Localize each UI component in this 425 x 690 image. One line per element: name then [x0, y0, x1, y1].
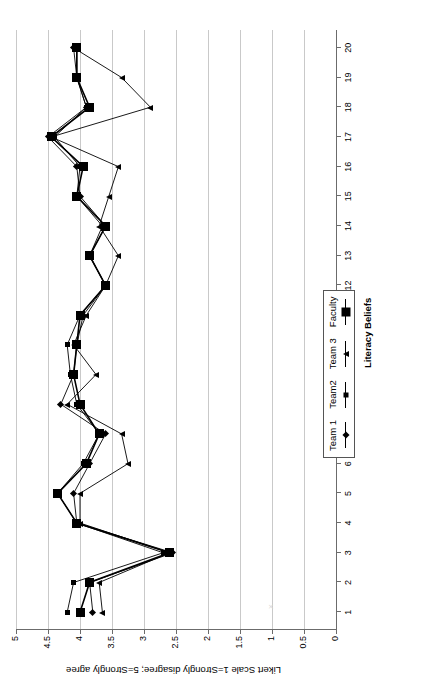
data-point — [69, 370, 78, 379]
x-axis-tick — [337, 255, 341, 256]
x-axis-tick — [337, 106, 341, 107]
legend-entry-faculty: Faculty — [328, 297, 351, 328]
legend-entry-team2: Team2 — [328, 380, 351, 409]
legend-label: Team 3 — [328, 338, 338, 369]
data-point — [95, 429, 104, 438]
data-point — [165, 548, 174, 557]
series-lines — [16, 30, 336, 630]
y-axis-tick-label: 1 — [267, 636, 276, 668]
data-point — [85, 578, 94, 587]
series-line-team-3 — [51, 48, 169, 612]
chart-figure: Team 1Team2Team 3Faculty 00.511.522.533.… — [0, 0, 425, 690]
data-point — [65, 342, 70, 347]
y-axis-tick-label: 1.5 — [235, 636, 244, 668]
x-axis-tick-label: 5 — [344, 481, 353, 505]
data-point — [72, 519, 81, 528]
data-point — [101, 222, 110, 231]
y-axis-tick-label: 0.5 — [299, 636, 308, 668]
x-axis-tick-label: 20 — [344, 36, 353, 60]
x-axis-tick — [337, 552, 341, 553]
data-point — [53, 489, 62, 498]
legend-entry-team-1: Team 1 — [328, 420, 351, 451]
x-axis-tick-label: 2 — [344, 570, 353, 594]
data-point — [82, 459, 91, 468]
x-axis-tick-label: 16 — [344, 155, 353, 179]
data-point — [72, 43, 81, 52]
y-axis-tick-label: 0 — [331, 636, 340, 668]
y-axis-tick-label: 2.5 — [171, 636, 180, 668]
x-axis-tick-label: 17 — [344, 125, 353, 149]
data-point — [72, 73, 81, 82]
plot-wrapper: Team 1Team2Team 3Faculty 00.511.522.533.… — [0, 0, 425, 690]
y-axis-tick — [336, 630, 337, 634]
series-line-team2 — [54, 48, 163, 612]
y-axis-tick — [80, 630, 81, 634]
x-axis-tick — [337, 581, 341, 582]
data-point — [76, 311, 85, 320]
y-axis-tick — [272, 630, 273, 634]
data-point — [96, 580, 102, 586]
x-axis-tick — [337, 492, 341, 493]
y-axis-tick — [240, 630, 241, 634]
y-axis-tick — [176, 630, 177, 634]
legend-entry-team-3: Team 3 — [328, 338, 351, 369]
x-axis-tick-label: 19 — [344, 66, 353, 90]
y-axis-tick-label: 3.5 — [107, 636, 116, 668]
x-axis-tick-label: 13 — [344, 244, 353, 268]
y-axis-tick — [144, 630, 145, 634]
diamond-icon — [340, 422, 351, 448]
data-point — [65, 610, 70, 615]
data-point — [99, 610, 105, 616]
y-axis-title: Likert Scale 1=Strongly disagree; 5=Stro… — [66, 665, 281, 676]
legend-label: Faculty — [328, 297, 338, 328]
legend-label: Team 1 — [328, 420, 338, 451]
data-point — [147, 105, 153, 111]
data-point — [115, 253, 121, 259]
x-axis-tick-label: 1 — [344, 600, 353, 624]
y-axis-tick-label: 4 — [75, 636, 84, 668]
series-line-faculty — [51, 48, 169, 612]
data-point — [106, 194, 112, 200]
y-axis-tick-label: 5 — [11, 636, 20, 668]
y-axis-tick-label: 3 — [139, 636, 148, 668]
y-axis-tick — [16, 630, 17, 634]
data-point — [85, 103, 94, 112]
data-point — [79, 162, 88, 171]
y-axis-tick — [208, 630, 209, 634]
x-axis-title: Literacy Beliefs — [362, 298, 373, 368]
data-point — [47, 132, 56, 141]
data-point — [119, 431, 125, 437]
data-point — [64, 402, 70, 408]
y-axis-tick — [112, 630, 113, 634]
x-axis-tick — [337, 463, 341, 464]
data-point — [71, 580, 76, 585]
x-axis-tick — [337, 77, 341, 78]
x-axis-tick-label: 14 — [344, 214, 353, 238]
data-point — [76, 400, 85, 409]
x-axis-tick — [337, 522, 341, 523]
data-point — [85, 251, 94, 260]
triangle-icon — [340, 341, 351, 367]
data-point — [125, 461, 131, 467]
plot-area: 00.511.522.533.544.551234567891011121314… — [16, 30, 336, 630]
y-axis-tick — [48, 630, 49, 634]
square-large-icon — [340, 299, 351, 325]
data-point — [119, 75, 125, 81]
y-axis-tick-label: 4.5 — [43, 636, 52, 668]
data-point — [72, 340, 81, 349]
scan-artifact: × — [266, 604, 276, 609]
x-axis-tick-label: 18 — [344, 95, 353, 119]
data-point — [93, 372, 99, 378]
x-axis-tick — [337, 166, 341, 167]
data-point — [72, 192, 81, 201]
x-axis-tick-label: 3 — [344, 541, 353, 565]
x-axis-tick — [337, 284, 341, 285]
x-axis-tick — [337, 136, 341, 137]
y-axis-tick — [304, 630, 305, 634]
legend-label: Team2 — [328, 380, 338, 409]
x-axis-tick-label: 15 — [344, 184, 353, 208]
data-point — [115, 164, 121, 170]
x-axis-tick — [337, 225, 341, 226]
data-point — [101, 281, 110, 290]
chart-legend: Team 1Team2Team 3Faculty — [323, 290, 355, 458]
